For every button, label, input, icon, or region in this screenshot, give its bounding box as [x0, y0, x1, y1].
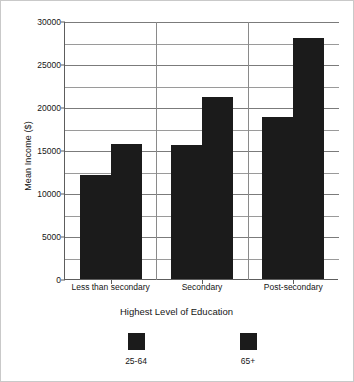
x-axis-title: Highest Level of Education [0, 306, 353, 317]
y-tick-mark [61, 22, 65, 23]
group-separator [156, 22, 157, 280]
y-tick-mark [61, 194, 65, 195]
y-tick-mark [61, 108, 65, 109]
y-tick-mark [61, 280, 65, 281]
plot-area: 050001000015000200002500030000Less than … [64, 22, 338, 280]
bar-25-64-less-than-secondary [80, 175, 111, 279]
bar-25-64-post-secondary [262, 117, 293, 279]
bar-65plus-post-secondary [293, 38, 324, 279]
chart-legend: 25-64 65+ [0, 333, 353, 373]
group-separator [248, 22, 249, 280]
gridline-major [65, 22, 339, 23]
legend-item-1: 65+ [208, 333, 288, 366]
y-tick-label: 15000 [37, 146, 61, 156]
x-tick-label-post-secondary: Post-secondary [264, 282, 323, 292]
x-tick-label-secondary: Secondary [182, 282, 223, 292]
y-tick-label: 25000 [37, 60, 61, 70]
legend-item-0: 25-64 [96, 333, 176, 366]
y-tick-label: 0 [56, 275, 61, 285]
y-tick-label: 5000 [42, 232, 61, 242]
y-tick-mark [61, 237, 65, 238]
bar-65plus-secondary [202, 97, 233, 279]
bar-65plus-less-than-secondary [111, 144, 142, 279]
y-tick-mark [61, 65, 65, 66]
legend-swatch-25-64 [128, 333, 145, 350]
legend-label-25-64: 25-64 [96, 356, 176, 366]
x-tick-label-less-than-secondary: Less than secondary [71, 282, 149, 292]
y-tick-label: 30000 [37, 17, 61, 27]
y-tick-mark [61, 151, 65, 152]
bar-25-64-secondary [171, 145, 202, 279]
legend-swatch-65-plus [240, 333, 257, 350]
y-axis-title: Mean Income ($) [23, 76, 33, 236]
legend-label-65-plus: 65+ [208, 356, 288, 366]
y-tick-label: 20000 [37, 103, 61, 113]
y-tick-label: 10000 [37, 189, 61, 199]
